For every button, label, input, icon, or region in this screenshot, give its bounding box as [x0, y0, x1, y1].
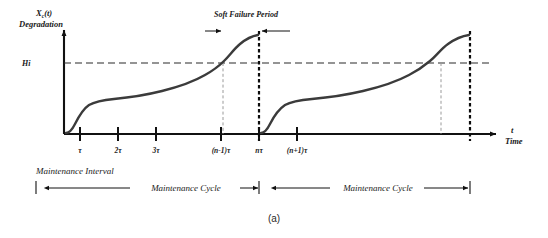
- y-axis-label-name: Degradation: [18, 19, 63, 29]
- soft-failure-period-annotation: Soft Failure Period: [205, 10, 290, 31]
- tick-label: 2τ: [113, 146, 122, 155]
- y-axis-label-group: Xc(t) Degradation: [18, 8, 63, 29]
- tick-label: nτ: [255, 146, 263, 155]
- degradation-curve-cycle-1: [66, 35, 258, 133]
- x-axis-label-symbol: t: [511, 125, 514, 135]
- threshold-label: Hi: [21, 59, 31, 68]
- maintenance-cycle-span-2: Maintenance Cycle: [276, 181, 470, 194]
- maintenance-cycle-1-label: Maintenance Cycle: [150, 183, 221, 193]
- maintenance-interval-label: Maintenance Interval: [35, 166, 114, 176]
- y-axis-label-symbol: Xc(t): [35, 8, 52, 19]
- x-axis-tick-labels: τ 2τ 3τ (n-1)τ nτ (n+1)τ: [78, 146, 308, 155]
- tick-label: τ: [78, 146, 82, 155]
- maintenance-interval-annotation: Maintenance Interval: [35, 166, 114, 176]
- degradation-curve-cycle-2: [261, 35, 469, 133]
- marker-lines-group: [223, 31, 470, 141]
- axes-group: [64, 30, 496, 134]
- degradation-curves: [66, 35, 469, 133]
- tick-label: (n-1)τ: [212, 146, 231, 155]
- soft-failure-period-label: Soft Failure Period: [214, 10, 279, 19]
- x-axis-label-group: t Time: [505, 125, 523, 146]
- degradation-maintenance-diagram: Xc(t) Degradation t Time Hi τ 2τ 3τ (n-: [0, 0, 548, 238]
- figure-container: Xc(t) Degradation t Time Hi τ 2τ 3τ (n-: [0, 0, 548, 238]
- tick-label: 3τ: [151, 146, 160, 155]
- x-axis-label-name: Time: [505, 136, 523, 146]
- tick-label: (n+1)τ: [287, 146, 308, 155]
- figure-caption: (a): [268, 213, 280, 224]
- maintenance-cycle-2-label: Maintenance Cycle: [342, 183, 413, 193]
- maintenance-cycle-span-1: Maintenance Cycle: [36, 181, 259, 194]
